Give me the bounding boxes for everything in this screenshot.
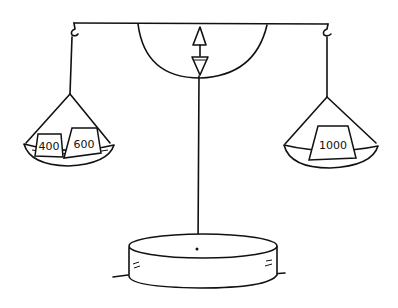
balance-scale-drawing: 400 600 1000 xyxy=(0,0,398,308)
pointer-dial xyxy=(138,24,267,78)
left-hook-icon xyxy=(71,23,78,36)
weight-1000: 1000 xyxy=(309,126,356,160)
weight-label-600: 600 xyxy=(74,138,95,151)
left-pan: 400 600 xyxy=(24,37,114,166)
central-pole xyxy=(198,76,199,248)
weight-400: 400 xyxy=(35,134,63,157)
weight-label-1000: 1000 xyxy=(319,139,347,152)
weight-600: 600 xyxy=(64,128,101,158)
base xyxy=(113,234,285,288)
upper-pointer-icon xyxy=(193,27,206,45)
right-hook-icon xyxy=(323,24,331,36)
weight-label-400: 400 xyxy=(39,140,60,153)
right-pan: 1000 xyxy=(284,37,378,168)
